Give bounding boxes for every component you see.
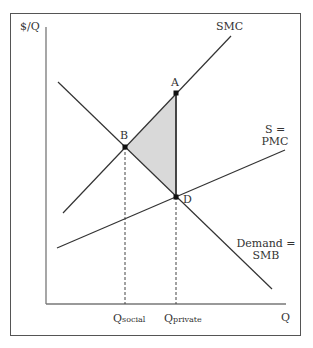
q-social-label: Qsocial <box>113 313 145 326</box>
q-social-main: Q <box>113 312 122 325</box>
deadweight-loss-area <box>125 93 176 197</box>
point-d-label: D <box>183 194 192 206</box>
x-axis-label: Q <box>281 312 290 324</box>
smc-label: SMC <box>216 21 243 33</box>
point-a-label: A <box>171 77 179 89</box>
point-a-marker <box>174 91 179 96</box>
point-b-marker <box>123 145 128 150</box>
smc-curve <box>63 36 231 213</box>
q-private-label: Qprivate <box>164 313 202 326</box>
point-d-marker <box>174 195 179 200</box>
pmc-label-line2: PMC <box>255 136 295 148</box>
q-private-main: Q <box>164 312 173 325</box>
pmc-label: S = PMC <box>255 124 295 148</box>
y-axis-label: $/Q <box>20 21 40 33</box>
diagram-canvas <box>0 0 313 348</box>
q-social-sub: social <box>122 315 145 324</box>
demand-label: Demand = SMB <box>234 238 298 262</box>
demand-label-line2: SMB <box>234 250 298 262</box>
q-private-sub: private <box>173 315 202 324</box>
point-b-label: B <box>120 130 128 142</box>
